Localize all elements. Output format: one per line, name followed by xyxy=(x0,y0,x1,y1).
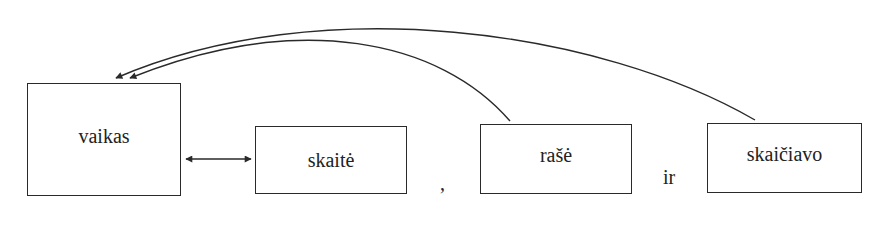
arrow-rase-to-vaikas xyxy=(130,40,510,121)
node-skaiciavo: skaičiavo xyxy=(707,123,862,193)
node-vaikas-label: vaikas xyxy=(78,125,129,148)
node-skaite: skaitė xyxy=(255,126,407,194)
conjunction-ir: ir xyxy=(663,166,675,189)
node-rase-label: rašė xyxy=(540,144,572,167)
node-vaikas: vaikas xyxy=(27,83,181,196)
node-skaite-label: skaitė xyxy=(308,149,355,172)
node-rase: rašė xyxy=(480,124,632,194)
comma-separator: , xyxy=(440,172,445,195)
node-skaiciavo-label: skaičiavo xyxy=(747,143,823,166)
arrow-skaiciavo-to-vaikas xyxy=(116,29,755,120)
